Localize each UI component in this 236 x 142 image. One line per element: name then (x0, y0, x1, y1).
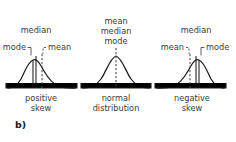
negative-skew-mode-leader (201, 48, 204, 56)
normal-distribution-mean-label: mean (104, 16, 127, 26)
positive-skew-mean-label: mean (48, 42, 71, 52)
panel-normal-distribution: mean median mode normal distribution (81, 16, 151, 113)
panel-negative-skew: median mean mode negative skew (155, 25, 229, 113)
positive-skew-caption-line2: skew (31, 103, 52, 113)
negative-skew-mean-leader (186, 48, 189, 55)
panel-positive-skew: median mode mean positive skew (3, 25, 77, 113)
skewness-diagram: median mode mean positive skew mean medi… (0, 0, 236, 142)
normal-distribution-caption-line2: distribution (93, 103, 140, 113)
positive-skew-mode-label: mode (3, 42, 26, 52)
positive-skew-mean-leader (43, 48, 46, 55)
negative-skew-caption-line1: negative (174, 93, 210, 103)
negative-skew-median-label: median (181, 25, 212, 35)
figure-tag: b) (15, 119, 26, 130)
normal-distribution-median-label: median (101, 26, 132, 36)
positive-skew-median-label: median (21, 25, 52, 35)
negative-skew-mode-label: mode (206, 42, 229, 52)
negative-skew-caption-line2: skew (182, 103, 203, 113)
normal-distribution-mode-label: mode (104, 36, 127, 46)
positive-skew-mode-leader (28, 48, 31, 56)
positive-skew-caption-line1: positive (25, 93, 57, 103)
negative-skew-mean-label: mean (161, 42, 184, 52)
normal-distribution-caption-line1: normal (102, 93, 131, 103)
